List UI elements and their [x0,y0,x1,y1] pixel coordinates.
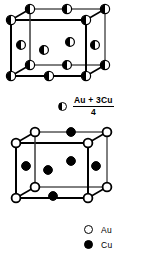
cu-atom [22,162,31,171]
legend-row-au: Au [84,222,152,237]
legend-label-cu: Cu [101,240,112,250]
open-circle-icon [84,225,93,234]
legend-row-cu: Cu [84,237,152,252]
au-atom [103,183,112,192]
half-filled-site [25,60,34,69]
composition-denominator: 4 [91,107,96,117]
half-filled-site [81,71,90,80]
half-filled-site [25,4,34,13]
cu-atom [67,128,76,137]
atom-key-legend: Au Cu [84,222,152,252]
au-atom [12,194,21,203]
au-atom [84,194,93,203]
half-filled-site [17,41,26,50]
half-filled-site [6,71,15,80]
crystal-structure-figure: Au + 3Cu 4 [0,0,154,260]
cu-atom [67,157,76,166]
au-atom [103,128,112,137]
filled-circle-icon [84,240,93,249]
au-atom [31,183,40,192]
half-filled-site [100,60,109,69]
half-filled-site [63,61,72,70]
half-filled-circle-icon [58,102,67,111]
cu-atom [92,162,101,171]
half-filled-site [6,15,15,24]
half-filled-site [62,4,71,13]
disordered-fcc-unit-cell [0,0,130,95]
composition-fraction: Au + 3Cu 4 [73,96,114,116]
composition-legend: Au + 3Cu 4 [58,94,154,118]
au-atom [12,139,21,148]
au-atom [31,128,40,137]
ordered-cu3au-unit-cell [0,116,130,216]
au-atom [84,139,93,148]
half-filled-site [100,4,109,13]
cu-atom [44,166,53,175]
legend-label-au: Au [101,225,112,235]
half-filled-site [66,38,75,47]
half-filled-site [40,46,49,55]
composition-numerator: Au + 3Cu [73,96,114,106]
cu-atom [49,192,58,201]
half-filled-site [91,41,100,50]
half-filled-site [44,71,53,80]
half-filled-site [81,15,90,24]
